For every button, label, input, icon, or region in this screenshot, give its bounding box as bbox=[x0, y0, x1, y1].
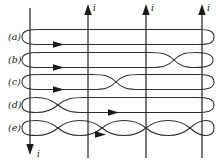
coil-c bbox=[22, 75, 214, 93]
coil-c-path bbox=[22, 75, 214, 90]
coil-b-direction-arrow bbox=[53, 64, 64, 70]
figure-canvas: (a) (b) (c) (d) (e) i i i i bbox=[0, 0, 219, 163]
wire-left-arrowhead-down bbox=[26, 144, 33, 155]
coil-e-direction-arrow bbox=[95, 131, 106, 137]
current-label-top-third: i bbox=[151, 3, 154, 13]
wire-second-arrowhead-up bbox=[84, 4, 91, 15]
row-label-e: (e) bbox=[8, 122, 21, 133]
coil-e bbox=[22, 121, 214, 138]
coil-a bbox=[22, 30, 214, 48]
coil-c-direction-arrow bbox=[53, 86, 64, 92]
row-label-c: (c) bbox=[8, 76, 21, 87]
current-label-bottom-left: i bbox=[37, 149, 40, 159]
coil-b bbox=[22, 53, 213, 71]
coil-a-direction-arrow bbox=[53, 41, 64, 47]
row-label-group: (a) (b) (c) (d) (e) bbox=[8, 31, 22, 133]
row-label-d: (d) bbox=[8, 99, 22, 110]
current-label-top-second: i bbox=[93, 3, 96, 13]
coil-wire-figure: (a) (b) (c) (d) (e) i i i i bbox=[0, 0, 219, 163]
coil-e-path bbox=[22, 121, 214, 136]
coil-d-direction-arrow bbox=[108, 109, 119, 115]
coil-d bbox=[22, 98, 214, 116]
row-label-b: (b) bbox=[8, 54, 22, 65]
wire-third-arrowhead-up bbox=[142, 4, 149, 15]
row-label-a: (a) bbox=[8, 31, 21, 42]
coil-b-path bbox=[22, 53, 213, 68]
coil-d-path bbox=[22, 98, 214, 113]
current-label-top-right: i bbox=[207, 3, 210, 13]
coil-a-path bbox=[22, 30, 214, 45]
wire-third bbox=[142, 4, 149, 158]
wire-right-arrowhead-up bbox=[198, 4, 205, 15]
